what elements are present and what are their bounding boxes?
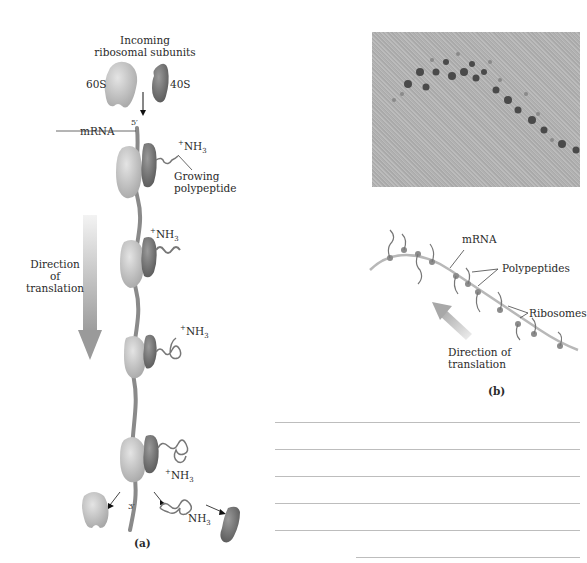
large-subunit-60s xyxy=(105,62,137,108)
electron-micrograph xyxy=(372,32,580,187)
label-incoming: Incoming xyxy=(95,34,195,46)
direction-arrow-b-icon xyxy=(432,302,472,340)
label-direction-a2: of xyxy=(15,270,95,282)
small-subunit-40s xyxy=(152,64,169,103)
label-3-prime: 3′ xyxy=(128,501,135,513)
released-large-subunit xyxy=(82,492,109,528)
label-mrna-b: mRNA xyxy=(462,233,497,245)
label-5-prime: 5′ xyxy=(131,117,138,129)
ribosome-2 xyxy=(120,237,180,288)
label-nh3-5: NH3 xyxy=(188,512,211,529)
answer-line-6 xyxy=(356,557,580,558)
answer-line-1 xyxy=(275,422,580,423)
answer-line-5 xyxy=(275,530,580,531)
answer-line-4 xyxy=(275,503,580,504)
caption-a: (a) xyxy=(134,537,151,549)
label-ribosomes: Ribosomes xyxy=(529,307,587,319)
label-60s: 60S xyxy=(86,78,107,90)
released-polypeptide xyxy=(160,500,191,514)
label-direction-a1: Direction xyxy=(15,258,95,270)
label-mrna-a: mRNA xyxy=(80,125,115,137)
answer-line-2 xyxy=(275,449,580,450)
label-polypeptide: polypeptide xyxy=(174,182,237,194)
caption-b: (b) xyxy=(488,385,505,397)
label-nh3-3: +NH3 xyxy=(180,322,209,342)
label-nh3-4: +NH3 xyxy=(165,466,194,486)
label-direction-a3: translation xyxy=(15,282,95,294)
label-ribosomal-subunits: ribosomal subunits xyxy=(90,46,200,58)
label-growing: Growing xyxy=(174,170,220,182)
label-polypeptides: Polypeptides xyxy=(502,262,570,274)
label-nh3-2: +NH3 xyxy=(150,225,179,245)
answer-line-3 xyxy=(275,476,580,477)
label-direction-b1: Direction of xyxy=(448,346,511,358)
label-direction-b2: translation xyxy=(448,358,506,370)
polysome-micrograph-dots xyxy=(372,32,580,187)
label-nh3-1: +NH3 xyxy=(178,137,207,157)
ribosome-3 xyxy=(124,335,181,378)
label-40s: 40S xyxy=(170,78,191,90)
